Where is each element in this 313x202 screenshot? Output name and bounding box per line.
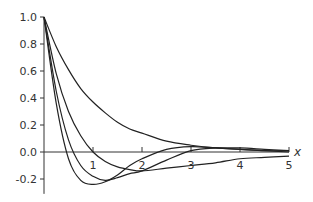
y-tick-label: 0.0 (20, 146, 38, 159)
curves (44, 17, 289, 184)
x-tick-label: 5 (286, 159, 293, 172)
x-tick-label: 4 (237, 159, 244, 172)
x-axis-name: x (293, 145, 302, 159)
series-curve-2 (44, 17, 289, 171)
series-curve-4 (44, 17, 289, 184)
y-tick-label: 1.0 (20, 11, 38, 24)
series-curve-3 (44, 17, 289, 180)
y-tick-label: 0.4 (20, 92, 38, 105)
series-curve-1 (44, 17, 289, 151)
y-tick-label: 0.6 (20, 65, 38, 78)
y-tick-label: 0.8 (20, 38, 38, 51)
line-chart: 1.00.80.60.40.20.0-0.2 12345 x (0, 0, 313, 202)
x-tick-label: 1 (90, 159, 97, 172)
y-tick-label: 0.2 (20, 119, 38, 132)
y-tick-label: -0.2 (16, 173, 37, 186)
y-axis: 1.00.80.60.40.20.0-0.2 (16, 11, 44, 194)
